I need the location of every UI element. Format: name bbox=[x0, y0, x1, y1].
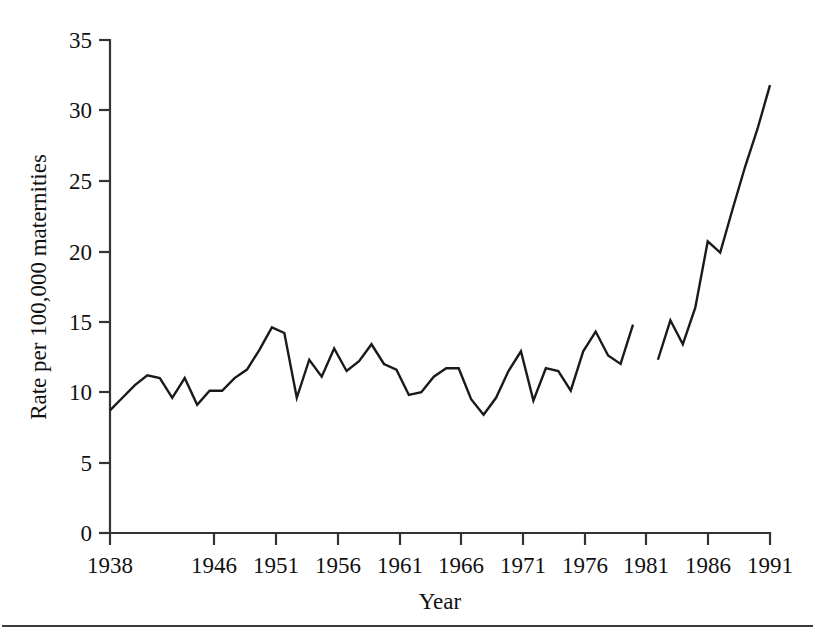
x-tick-label-1976: 1976 bbox=[562, 553, 608, 578]
y-tick-label-10: 10 bbox=[69, 380, 92, 405]
y-tick-label-35: 35 bbox=[69, 28, 92, 53]
x-axis-title: Year bbox=[419, 589, 462, 614]
x-tick-label-1981: 1981 bbox=[623, 553, 669, 578]
figure-container: 35 30 25 20 15 10 5 0 1938 1946 bbox=[0, 0, 815, 639]
y-axis-title: Rate per 100,000 maternities bbox=[26, 154, 51, 420]
y-tick-label-0: 0 bbox=[81, 521, 93, 546]
y-tick-label-15: 15 bbox=[69, 310, 92, 335]
x-axis-ticks bbox=[110, 533, 770, 545]
y-tick-label-30: 30 bbox=[69, 98, 92, 123]
x-tick-label-1956: 1956 bbox=[315, 553, 361, 578]
x-tick-label-1971: 1971 bbox=[500, 553, 546, 578]
data-line-segment-1 bbox=[110, 325, 633, 415]
x-tick-label-1938: 1938 bbox=[87, 553, 133, 578]
x-axis-tick-labels: 1938 1946 1951 1956 1961 1966 1971 1976 … bbox=[87, 553, 793, 578]
line-chart: 35 30 25 20 15 10 5 0 1938 1946 bbox=[0, 0, 815, 639]
y-tick-label-25: 25 bbox=[69, 169, 92, 194]
x-tick-label-1946: 1946 bbox=[191, 553, 237, 578]
y-axis-ticks bbox=[99, 40, 110, 533]
x-tick-label-1951: 1951 bbox=[253, 553, 299, 578]
x-tick-label-1991: 1991 bbox=[747, 553, 793, 578]
y-tick-label-5: 5 bbox=[81, 451, 93, 476]
data-line-segment-2 bbox=[658, 85, 770, 360]
x-tick-label-1966: 1966 bbox=[438, 553, 484, 578]
y-axis-tick-labels: 35 30 25 20 15 10 5 0 bbox=[69, 28, 92, 546]
y-tick-label-20: 20 bbox=[69, 240, 92, 265]
x-tick-label-1986: 1986 bbox=[685, 553, 731, 578]
x-tick-label-1961: 1961 bbox=[377, 553, 423, 578]
